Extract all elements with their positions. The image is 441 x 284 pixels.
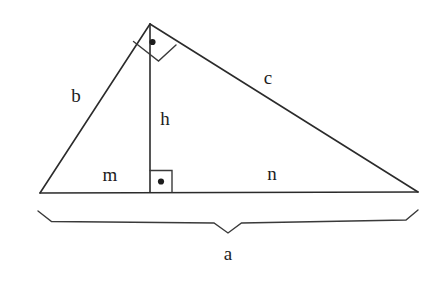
apex-right-angle-dot (149, 39, 155, 45)
label-m: m (103, 165, 118, 184)
label-c: c (264, 68, 272, 87)
label-h: h (160, 109, 170, 128)
apex-right-angle-square (134, 42, 177, 62)
label-a: a (224, 244, 232, 263)
label-n: n (267, 164, 277, 183)
geometry-figure: b c h m n a (0, 0, 441, 284)
triangle-side-c (150, 24, 418, 192)
label-b: b (71, 86, 81, 105)
triangle-side-b (40, 24, 150, 193)
triangle-diagram-svg (0, 0, 441, 284)
foot-right-angle-dot (158, 178, 164, 184)
hypotenuse-brace (38, 210, 418, 233)
triangle-hypotenuse-a (40, 192, 418, 193)
